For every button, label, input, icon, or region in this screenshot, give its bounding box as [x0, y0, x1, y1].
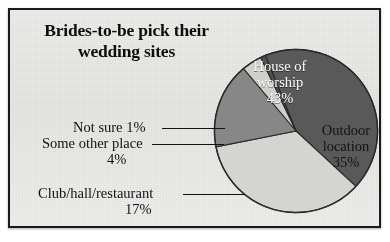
callout-percent-some-other-place: 4% [107, 152, 126, 168]
chart-frame: Brides-to-be pick their wedding sites Ho… [8, 8, 381, 228]
pie-label-outdoor-location-percent: 35% [305, 154, 379, 170]
callout-label-some-other-place: Some other place [42, 136, 143, 152]
pie-label-house-of-worship-percent: 43% [232, 90, 328, 106]
pie-label-house-of-worship-line-1: House of [254, 58, 307, 74]
callout-label-club-hall-restaurant: Club/hall/restaurant [38, 186, 153, 202]
pie-label-house-of-worship-line-2: worship [257, 74, 304, 90]
chart-title-line-2: wedding sites [24, 41, 229, 62]
callout-label-not-sure: Not sure 1% [73, 120, 146, 136]
pie-label-outdoor-location-line-1: Outdoor [322, 122, 370, 138]
chart-title: Brides-to-be pick their wedding sites [24, 20, 229, 63]
callout-leader-line-club-hall-restaurant [183, 194, 245, 196]
chart-title-line-1: Brides-to-be pick their [24, 20, 229, 41]
pie-label-outdoor-location-line-2: location [323, 138, 370, 154]
pie-label-outdoor-location: Outdoor location 35% [305, 122, 379, 171]
callout-leader-line-some-other-place [152, 144, 224, 146]
chart-canvas: Brides-to-be pick their wedding sites Ho… [10, 10, 379, 226]
chart-figure: Brides-to-be pick their wedding sites Ho… [0, 0, 390, 242]
callout-leader-line-not-sure [162, 128, 225, 130]
pie-label-house-of-worship: House of worship 43% [232, 58, 328, 107]
callout-percent-club-hall-restaurant: 17% [125, 202, 152, 218]
